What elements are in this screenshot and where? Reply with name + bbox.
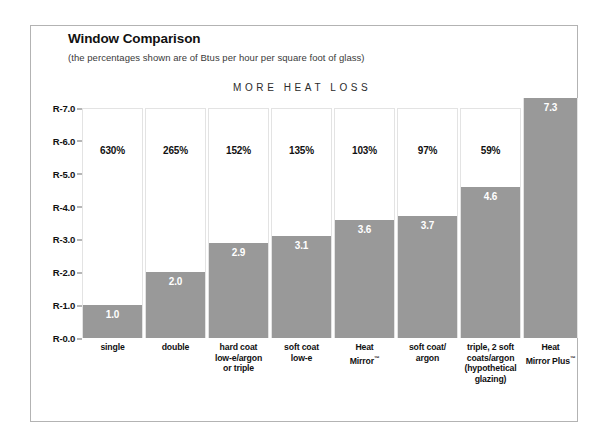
bar-fill: 3.6: [335, 220, 394, 338]
page-title: Window Comparison: [68, 31, 200, 46]
bar-value-label: 2.0: [146, 276, 205, 287]
bar-fill: 2.9: [209, 243, 268, 338]
bar-column: 7.3: [523, 98, 578, 338]
bar-fill: 4.6: [461, 187, 520, 338]
y-axis-tick-label: R-1.0: [53, 300, 82, 311]
bar-value-label: 3.7: [398, 220, 457, 231]
x-axis-category-label: soft coat/argon: [397, 342, 458, 363]
bar-percent-label: 630%: [83, 145, 142, 156]
bar-percent-label: 59%: [461, 145, 520, 156]
bar-value-label: 3.1: [272, 240, 331, 251]
bar-fill: 2.0: [146, 272, 205, 338]
bar-value-label: 2.9: [209, 247, 268, 258]
bar-column: 2.9152%: [208, 108, 269, 338]
x-axis-category-label: HeatMirror Plus™: [523, 342, 578, 366]
x-axis-category-label: HeatMirror™: [334, 342, 395, 366]
y-axis-tick-label: R-4.0: [53, 201, 82, 212]
y-axis-tick-label: R-2.0: [53, 267, 82, 278]
y-axis-tick-label: R-6.0: [53, 135, 82, 146]
bar-value-label: 3.6: [335, 224, 394, 235]
y-axis-tick-label: R-3.0: [53, 234, 82, 245]
bar-percent-label: 135%: [272, 145, 331, 156]
bar-percent-label: 97%: [398, 145, 457, 156]
bar-fill: 3.7: [398, 216, 457, 338]
x-axis-category-label: double: [145, 342, 206, 353]
more-heat-loss-annotation: MORE HEAT LOSS: [233, 82, 371, 93]
bar-fill: 7.3: [524, 98, 577, 338]
y-axis-tick-label: R-0.0: [53, 333, 82, 344]
bar-chart-plot-area: R-7.0R-6.0R-5.0R-4.0R-3.0R-2.0R-1.0R-0.0…: [82, 108, 578, 338]
bar-percent-label: 103%: [335, 145, 394, 156]
x-axis-category-label: single: [82, 342, 143, 353]
y-axis-tick-label: R-7.0: [53, 103, 82, 114]
bar-column: 1.0630%: [82, 108, 143, 338]
x-axis-category-label: hard coatlow-e/argonor triple: [208, 342, 269, 374]
x-axis-category-label: soft coatlow-e: [271, 342, 332, 363]
bar-value-label: 7.3: [524, 102, 577, 113]
bar-value-label: 1.0: [83, 309, 142, 320]
bar-fill: 3.1: [272, 236, 331, 338]
bar-column: 3.797%: [397, 108, 458, 338]
bar-percent-label: 265%: [146, 145, 205, 156]
x-axis-category-label: triple, 2 softcoats/argon(hypotheticalgl…: [460, 342, 521, 384]
bar-value-label: 4.6: [461, 191, 520, 202]
bar-fill: 1.0: [83, 305, 142, 338]
bar-column: 2.0265%: [145, 108, 206, 338]
chart-subtitle: (the percentages shown are of Btus per h…: [68, 52, 365, 63]
bar-percent-label: 152%: [209, 145, 268, 156]
y-axis-tick-label: R-5.0: [53, 168, 82, 179]
bar-column: 3.6103%: [334, 108, 395, 338]
bar-column: 4.659%: [460, 108, 521, 338]
bar-column: 3.1135%: [271, 108, 332, 338]
